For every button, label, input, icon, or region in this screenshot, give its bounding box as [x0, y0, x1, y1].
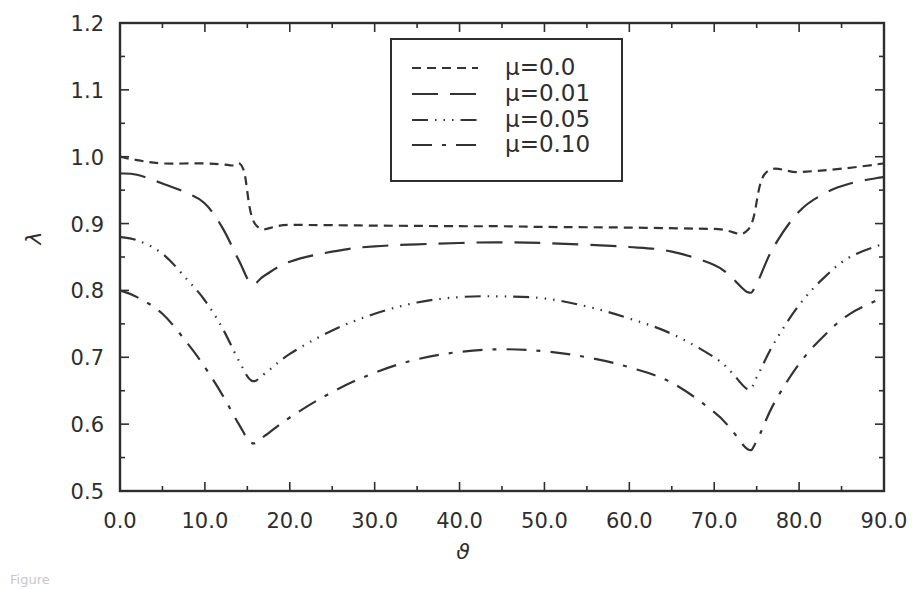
- y-tick-label: 0.6: [71, 413, 104, 437]
- legend-label-2: μ=0.05: [505, 106, 590, 132]
- x-tick-label: 50.0: [521, 509, 568, 533]
- x-tick-label: 60.0: [606, 509, 653, 533]
- x-tick-label: 30.0: [351, 509, 398, 533]
- y-tick-label: 1.0: [71, 146, 104, 170]
- figure-caption: Figure: [10, 572, 50, 587]
- series-layer: [120, 157, 884, 450]
- y-tick-label: 0.5: [71, 480, 104, 504]
- y-tick-label: 0.7: [71, 346, 104, 370]
- series-line-1: [120, 173, 884, 292]
- x-tick-label: 20.0: [266, 509, 313, 533]
- x-tick-label: 10.0: [182, 509, 229, 533]
- y-axis-title: λ: [21, 231, 46, 245]
- x-tick-label: 80.0: [776, 509, 823, 533]
- legend-label-0: μ=0.0: [505, 54, 575, 80]
- x-tick-label: 40.0: [436, 509, 483, 533]
- series-line-3: [120, 290, 884, 450]
- series-line-2: [120, 237, 884, 390]
- legend-label-1: μ=0.01: [505, 80, 590, 106]
- legend-label-3: μ=0.10: [505, 131, 590, 157]
- y-tick-label: 0.8: [71, 279, 104, 303]
- x-tick-label: 90.0: [861, 509, 908, 533]
- y-tick-label: 0.9: [71, 213, 104, 237]
- x-tick-label: 0.0: [103, 509, 136, 533]
- y-tick-label: 1.1: [71, 79, 104, 103]
- x-axis-title: ϑ: [456, 539, 470, 564]
- legend: μ=0.0μ=0.01μ=0.05μ=0.10: [391, 39, 622, 181]
- y-tick-label: 1.2: [71, 12, 104, 36]
- x-tick-label: 70.0: [691, 509, 738, 533]
